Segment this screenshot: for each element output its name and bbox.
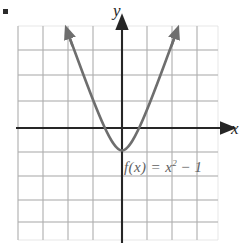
parabola-left-arrowhead xyxy=(69,36,73,46)
constant-one: 1 xyxy=(194,159,202,175)
y-axis-label: y xyxy=(113,2,121,19)
grid-minor-lines xyxy=(18,26,218,240)
equals-sign: = xyxy=(146,159,165,175)
x-axis-label: x xyxy=(231,120,239,137)
minus-operator: − xyxy=(177,159,194,175)
function-equation-label: f(x) = x2 − 1 xyxy=(124,159,202,176)
figure-container: y x f(x) = x2 − 1 xyxy=(0,0,249,248)
function-name: f(x) xyxy=(124,159,146,175)
grid-major-lines xyxy=(18,26,218,240)
coordinate-plane-graph xyxy=(0,0,249,248)
